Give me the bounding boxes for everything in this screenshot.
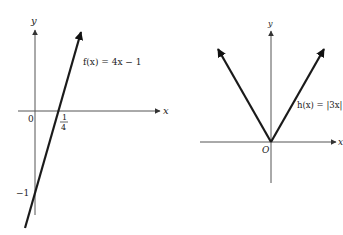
left-origin-label: 0 [28,114,34,124]
left-function-line [25,32,81,228]
left-graph: y x 0 1 4 −1 f(x) = 4x − 1 [16,15,169,228]
right-y-axis-label: y [267,19,273,28]
diagram-canvas: y x 0 1 4 −1 f(x) = 4x − 1 y x O h(x) = … [0,0,343,235]
right-x-axis-label: x [338,137,343,147]
right-graph: y x O h(x) = |3x| [200,19,343,183]
right-origin-label: O [262,145,270,155]
left-function-label: f(x) = 4x − 1 [83,57,141,67]
x-intercept-numerator: 1 [62,113,67,122]
left-y-axis-label: y [30,15,37,26]
right-function-right-arm [271,49,324,142]
x-intercept-denominator: 4 [61,123,66,132]
right-function-left-arm [218,49,271,142]
left-x-axis-label: x [163,105,169,116]
y-intercept-label: −1 [16,188,29,198]
right-function-label: h(x) = |3x| [297,100,342,111]
